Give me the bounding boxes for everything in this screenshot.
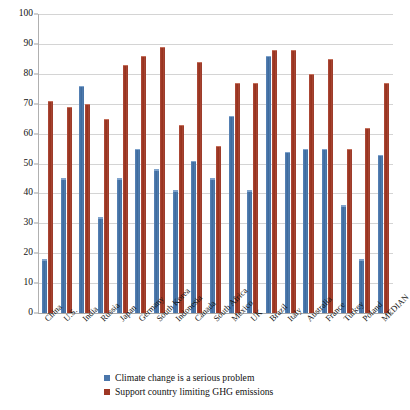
y-axis: 0102030405060708090100: [0, 14, 38, 313]
bar-group: [210, 14, 221, 313]
bar-highlight: [285, 152, 290, 154]
bar: [67, 107, 72, 313]
bar-group: [79, 14, 90, 313]
bar-highlight: [98, 217, 103, 219]
bar-highlight: [123, 65, 128, 67]
bar: [197, 62, 202, 313]
x-axis-labels: ChinaU.S.IndiaRussiaJapanGermanySouth Ko…: [38, 313, 393, 373]
bar: [285, 152, 290, 313]
bar-group: [322, 14, 333, 313]
bar: [235, 83, 240, 313]
bar-highlight: [309, 74, 314, 76]
y-tick-label: 10: [5, 278, 33, 288]
bar: [341, 205, 346, 313]
bar: [117, 178, 122, 313]
bar-group: [229, 14, 240, 313]
legend-swatch-icon: [104, 375, 110, 381]
bar-highlight: [48, 101, 53, 103]
bar-highlight: [359, 259, 364, 261]
bar-highlight: [117, 178, 122, 180]
y-tick-label: 90: [5, 39, 33, 49]
bar-highlight: [85, 104, 90, 106]
y-tick-label: 40: [5, 189, 33, 199]
bar-highlight: [216, 146, 221, 148]
y-tick-label: 100: [5, 9, 33, 19]
bar-highlight: [160, 47, 165, 49]
y-tick-label: 70: [5, 99, 33, 109]
bar-highlight: [141, 56, 146, 58]
chart-legend: Climate change is a serious problemSuppo…: [104, 371, 354, 399]
bar-highlight: [266, 56, 271, 58]
bar-highlight: [79, 86, 84, 88]
bar-group: [285, 14, 296, 313]
bar-highlight: [197, 62, 202, 64]
bar: [135, 149, 140, 313]
legend-label: Support country limiting GHG emissions: [115, 387, 273, 397]
bar-highlight: [104, 119, 109, 121]
legend-item: Climate change is a serious problem: [104, 371, 354, 385]
bar-highlight: [154, 169, 159, 171]
bar: [48, 101, 53, 313]
bar-group: [42, 14, 53, 313]
bar: [141, 56, 146, 313]
bar-group: [266, 14, 277, 313]
bar: [309, 74, 314, 313]
bar-highlight: [229, 116, 234, 118]
bar-highlight: [61, 178, 66, 180]
bar-group: [117, 14, 128, 313]
bar: [104, 119, 109, 313]
bar-highlight: [42, 259, 47, 261]
bar-group: [303, 14, 314, 313]
bar: [384, 83, 389, 313]
bar: [123, 65, 128, 313]
plot-area: [38, 14, 393, 313]
bar-highlight: [365, 128, 370, 130]
y-tick-label: 20: [5, 248, 33, 258]
legend-item: Support country limiting GHG emissions: [104, 385, 354, 399]
bar-group: [154, 14, 165, 313]
bar-highlight: [378, 155, 383, 157]
bar: [61, 178, 66, 313]
bar: [347, 149, 352, 313]
bar: [303, 149, 308, 313]
bar-highlight: [135, 149, 140, 151]
bar-highlight: [303, 149, 308, 151]
bar: [179, 125, 184, 313]
bar-group: [359, 14, 370, 313]
bar-highlight: [291, 50, 296, 52]
bar: [272, 50, 277, 313]
bar: [229, 116, 234, 313]
bar-highlight: [210, 178, 215, 180]
bar: [291, 50, 296, 313]
bar-highlight: [67, 107, 72, 109]
bar: [328, 59, 333, 313]
bar-highlight: [384, 83, 389, 85]
bar: [160, 47, 165, 313]
bar-group: [173, 14, 184, 313]
bar: [98, 217, 103, 313]
bar-group: [191, 14, 202, 313]
bar: [322, 149, 327, 313]
bar-highlight: [191, 161, 196, 163]
bar-group: [61, 14, 72, 313]
bar-highlight: [253, 83, 258, 85]
bar-highlight: [347, 149, 352, 151]
bar-highlight: [341, 205, 346, 207]
bar: [191, 161, 196, 313]
bar-highlight: [235, 83, 240, 85]
y-tick-label: 0: [5, 308, 33, 318]
bar: [216, 146, 221, 313]
bar-group: [378, 14, 389, 313]
bar: [42, 259, 47, 313]
bar: [85, 104, 90, 313]
bar: [154, 169, 159, 313]
bar: [365, 128, 370, 313]
bar-highlight: [179, 125, 184, 127]
y-tick-label: 30: [5, 219, 33, 229]
bar-group: [98, 14, 109, 313]
bar: [79, 86, 84, 313]
bar: [378, 155, 383, 313]
legend-label: Climate change is a serious problem: [115, 373, 254, 383]
legend-swatch-icon: [104, 389, 110, 395]
